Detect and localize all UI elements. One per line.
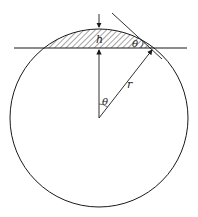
label-theta-cap: θ — [132, 38, 138, 49]
radius-arrow — [99, 50, 152, 118]
label-r: r — [127, 78, 133, 91]
label-theta-center: θ — [102, 96, 108, 107]
circle-segment-diagram: h θ θ r — [0, 0, 198, 217]
label-h: h — [96, 33, 103, 46]
